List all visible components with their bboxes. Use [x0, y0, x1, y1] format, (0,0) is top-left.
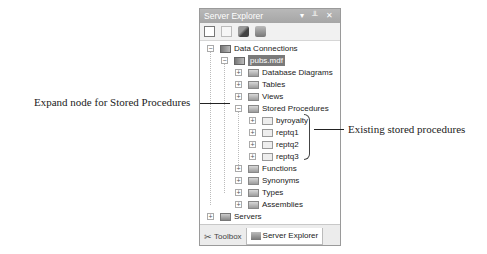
toolbar	[200, 23, 340, 41]
folder-icon	[248, 177, 259, 185]
expand-icon[interactable]: +	[235, 165, 242, 172]
folder-icon	[248, 81, 259, 89]
tree-node-procedure[interactable]: + byroyalty	[249, 115, 308, 126]
folder-icon	[248, 93, 259, 101]
collapse-icon[interactable]: −	[221, 57, 228, 64]
tree-view: − Data Connections − pubs.mdf + Database…	[200, 41, 340, 225]
tree-node-views[interactable]: + Views	[235, 91, 283, 102]
tree-node-synonyms[interactable]: + Synonyms	[235, 175, 299, 186]
callout-existing-procedures: Existing stored procedures	[348, 123, 465, 135]
stored-procedure-icon	[262, 129, 273, 137]
expand-icon[interactable]: +	[235, 177, 242, 184]
bottom-tabs: ✂ Toolbox Server Explorer	[200, 224, 340, 245]
expand-icon[interactable]: +	[235, 93, 242, 100]
tree-node-functions[interactable]: + Functions	[235, 163, 297, 174]
server-explorer-icon	[251, 232, 261, 240]
tree-node-procedure[interactable]: + reptq1	[249, 127, 299, 138]
data-connections-icon	[220, 45, 231, 53]
tree-node-procedure[interactable]: + reptq3	[249, 151, 299, 162]
connect-to-server-icon[interactable]	[255, 26, 266, 37]
refresh-icon[interactable]	[204, 26, 215, 37]
tree-node-database-diagrams[interactable]: + Database Diagrams	[235, 67, 333, 78]
expand-icon[interactable]: +	[249, 117, 256, 124]
folder-icon	[248, 105, 259, 113]
tree-line	[238, 107, 239, 165]
expand-icon[interactable]: +	[235, 69, 242, 76]
panel-title: Server Explorer	[204, 11, 263, 21]
stop-icon[interactable]	[221, 26, 232, 37]
tree-node-data-connections[interactable]: − Data Connections	[207, 43, 298, 54]
folder-icon	[248, 165, 259, 173]
expand-icon[interactable]: +	[207, 213, 214, 220]
tree-node-pubs-mdf[interactable]: − pubs.mdf	[221, 55, 285, 66]
panel-titlebar: Server Explorer ▾ ╨ ✕	[200, 9, 340, 23]
tree-node-assemblies[interactable]: + Assemblies	[235, 199, 303, 210]
database-icon	[234, 57, 245, 65]
server-explorer-panel: Server Explorer ▾ ╨ ✕ − Data Connections…	[199, 8, 341, 246]
expand-icon[interactable]: +	[235, 189, 242, 196]
tree-node-servers[interactable]: + Servers	[207, 211, 262, 222]
callout-expand-node: Expand node for Stored Procedures	[34, 96, 190, 108]
expand-icon[interactable]: +	[249, 141, 256, 148]
stored-procedure-icon	[262, 141, 273, 149]
connect-to-database-icon[interactable]	[238, 26, 249, 37]
tree-line	[224, 61, 225, 193]
stored-procedure-icon	[262, 153, 273, 161]
expand-icon[interactable]: +	[249, 153, 256, 160]
expand-icon[interactable]: +	[235, 81, 242, 88]
folder-icon	[248, 69, 259, 77]
tab-toolbox[interactable]: ✂ Toolbox	[200, 229, 246, 245]
callout-brace	[304, 114, 310, 160]
toolbox-icon: ✂	[204, 229, 212, 245]
folder-icon	[248, 201, 259, 209]
tab-server-explorer[interactable]: Server Explorer	[246, 228, 324, 245]
collapse-icon[interactable]: −	[207, 45, 214, 52]
folder-icon	[248, 189, 259, 197]
expand-icon[interactable]: +	[235, 201, 242, 208]
callout-arrow-right	[314, 129, 344, 130]
tree-line	[210, 49, 211, 205]
servers-icon	[220, 213, 231, 221]
callout-arrow-left	[200, 103, 230, 104]
tree-node-tables[interactable]: + Tables	[235, 79, 285, 90]
collapse-icon[interactable]: −	[235, 105, 242, 112]
tree-node-types[interactable]: + Types	[235, 187, 283, 198]
tree-node-procedure[interactable]: + reptq2	[249, 139, 299, 150]
stored-procedure-icon	[262, 117, 273, 125]
tree-node-stored-procedures[interactable]: − Stored Procedures	[235, 103, 329, 114]
expand-icon[interactable]: +	[249, 129, 256, 136]
window-controls[interactable]: ▾ ╨ ✕	[300, 9, 336, 23]
